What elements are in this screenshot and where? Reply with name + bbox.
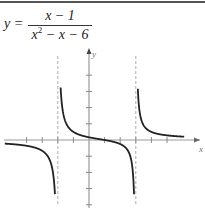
x-axis-arrow-icon: [194, 138, 200, 143]
y-axis-label: y: [91, 49, 96, 59]
x-axis-label: x: [198, 144, 203, 154]
curves: [5, 88, 184, 195]
axes: [4, 48, 200, 208]
middle-branch: [61, 88, 134, 195]
left-branch: [5, 144, 55, 194]
asymptotes: [58, 56, 136, 205]
function-graph: y x: [0, 0, 205, 216]
y-axis-arrow-icon: [87, 48, 92, 54]
right-branch: [138, 89, 184, 137]
